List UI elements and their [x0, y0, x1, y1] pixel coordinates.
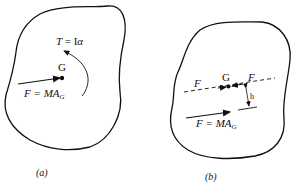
- offset-reference-line: [238, 107, 257, 110]
- distance-label-h: h: [250, 93, 254, 101]
- distance-h-indicator: [246, 88, 249, 106]
- rigid-body-outline-a: [5, 6, 125, 150]
- force-label-b: F = MAG: [196, 118, 237, 131]
- center-label-a: G: [58, 62, 66, 73]
- center-label-b: G: [222, 72, 230, 83]
- rigid-body-outline-b: [171, 22, 291, 159]
- force-arrow-left-b: [218, 87, 226, 88]
- caption-a: (a): [36, 168, 48, 178]
- center-of-mass-point-b: [227, 85, 231, 89]
- center-of-mass-point-a: [60, 76, 64, 80]
- force-right-label-b: F: [248, 72, 255, 83]
- caption-b: (b): [205, 172, 217, 182]
- torque-label: T = Iα: [56, 36, 83, 47]
- force-label-a: F = MAG: [24, 88, 65, 101]
- force-left-label-b: F: [194, 78, 201, 89]
- torque-arc-icon: [64, 51, 88, 96]
- force-arrow-a: [18, 78, 60, 84]
